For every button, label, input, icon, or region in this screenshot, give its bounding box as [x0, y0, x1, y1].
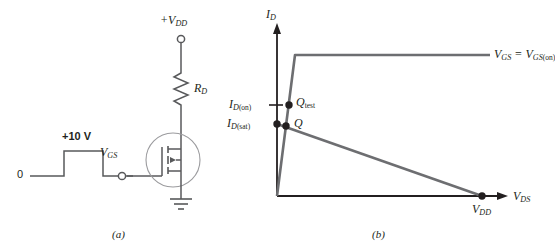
pulse-low-label: 0 — [17, 169, 23, 180]
pulse-waveform — [30, 151, 133, 176]
x-axis-label: VDS — [513, 190, 530, 204]
gate-terminal-node — [118, 172, 125, 179]
resistor-rd-symbol — [174, 68, 188, 112]
marker-id-sat-axis — [273, 120, 280, 127]
point-label-q: Q — [294, 117, 303, 129]
dc-load-line — [277, 124, 482, 196]
pulse-high-label: +10 V — [62, 131, 91, 142]
mosfet-body-arrow — [170, 157, 176, 163]
tick-label-vdd: VDD — [472, 203, 491, 217]
marker-vdd — [478, 192, 485, 199]
marker-q-test — [285, 101, 292, 108]
gate-voltage-label: VGS — [100, 146, 117, 160]
x-axis-arrowhead — [497, 192, 508, 200]
supply-voltage-label: +VDD — [160, 14, 187, 28]
vdd-terminal-node — [177, 35, 184, 42]
panel-a-circuit — [30, 35, 200, 209]
marker-q-point — [282, 122, 289, 129]
curve-label-vgs-on: VGS = VGS(on) — [494, 48, 555, 62]
y-axis-label: ID — [266, 8, 276, 22]
panel-b-graph — [269, 23, 508, 200]
resistor-label: RD — [194, 82, 207, 96]
caption-b: (b) — [372, 228, 385, 240]
point-label-q-test: Qtest — [296, 96, 315, 109]
drain-characteristic-curve — [277, 55, 490, 196]
caption-a: (a) — [112, 228, 125, 240]
tick-label-id-sat: ID(sat) — [227, 117, 250, 131]
y-axis-arrowhead — [273, 23, 281, 34]
tick-label-id-on: ID(on) — [229, 98, 251, 112]
